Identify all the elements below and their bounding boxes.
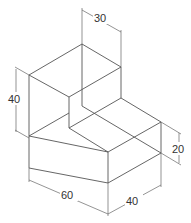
isometric-drawing: 30 40 20 60 40 xyxy=(0,0,191,223)
dim-label-30: 30 xyxy=(94,12,106,24)
dim-label-40-depth: 40 xyxy=(126,195,138,207)
object-edges xyxy=(29,44,161,183)
dimension-lines xyxy=(15,8,181,216)
dimension-labels: 30 40 20 60 40 xyxy=(5,12,189,207)
dim-label-40-height: 40 xyxy=(8,93,20,105)
dim-label-20: 20 xyxy=(172,143,184,155)
dim-label-60: 60 xyxy=(61,189,73,201)
